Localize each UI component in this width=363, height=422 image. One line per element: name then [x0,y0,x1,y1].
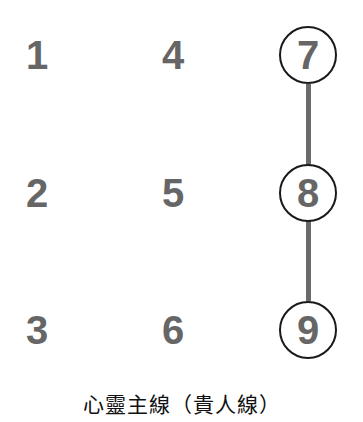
digit-1: 1 [7,25,67,85]
circled-digit-8: 8 [279,164,337,222]
circled-digit-7: 7 [279,26,337,84]
circled-digit-9: 9 [279,301,337,359]
digit-4: 4 [143,25,203,85]
digit-3: 3 [7,300,67,360]
digit-5: 5 [143,163,203,223]
diagram-caption: 心靈主線（貴人線） [0,388,363,418]
digit-6: 6 [143,300,203,360]
digit-2: 2 [7,163,67,223]
